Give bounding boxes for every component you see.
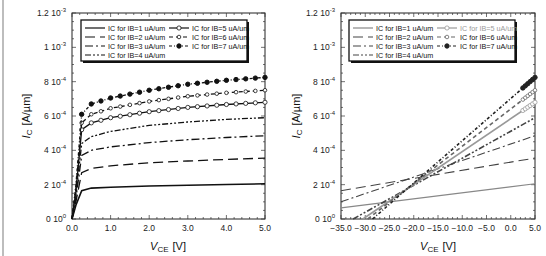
right-series-line <box>373 77 535 219</box>
y-tick-label: 4 10-4 <box>313 144 336 155</box>
x-tick-label: −25.0 <box>379 223 401 233</box>
right-series-line <box>353 118 535 219</box>
x-tick-label: 4.0 <box>220 223 232 233</box>
right-chart: 0 100 2 10-4 4 10-4 6 10-4 8 10-4 1 10-3… <box>290 7 541 254</box>
left-y-tick-labels: 0 100 2 10-4 4 10-4 6 10-4 8 10-4 1 10-3… <box>37 7 67 224</box>
right-y-axis-title: IC[A/µm] <box>290 94 304 139</box>
legend-entry: IC for IB=7 uA/um <box>192 42 249 51</box>
legend-entry: IC for IB=2 uA/um <box>376 33 433 42</box>
legend-entry: IC for IB=3 uA/um <box>108 42 165 51</box>
x-tick-label: 0.0 <box>505 223 517 233</box>
right-series-line <box>341 158 535 191</box>
legend-entry: IC for IB=7 uA/um <box>460 42 517 51</box>
y-tick-label: 1.2 10-3 <box>37 7 67 18</box>
y-tick-label: 8 10-4 <box>313 76 336 87</box>
legend-entry: IC for IB=3 uA/um <box>376 42 433 51</box>
left-series-line <box>72 184 265 219</box>
y-tick-label: 0 100 <box>46 213 67 224</box>
right-legend: IC for IB=1 uA/umIC for IB=2 uA/umIC for… <box>349 20 517 63</box>
y-tick-label: 4 10-4 <box>44 144 67 155</box>
right-series-group <box>341 75 537 219</box>
x-tick-label: −10.0 <box>451 223 473 233</box>
right-y-tick-labels: 0 100 2 10-4 4 10-4 6 10-4 8 10-4 1 10-3… <box>306 7 336 224</box>
left-y-axis-title: IC[A/µm] <box>20 94 34 139</box>
y-tick-label: 1 10-3 <box>44 41 67 52</box>
right-series-line <box>363 102 535 219</box>
x-tick-label: 1.0 <box>105 223 117 233</box>
y-tick-label: 6 10-4 <box>313 110 336 121</box>
x-tick-label: 2.0 <box>143 223 155 233</box>
x-tick-label: −5.0 <box>478 223 495 233</box>
left-x-axis-title: VCE[V] <box>150 240 186 254</box>
legend-entry: IC for IB=6 uA/um <box>460 33 517 42</box>
legend-entry: IC for IB=2 uA/um <box>108 33 165 42</box>
legend-entry: IC for IB=1 uA/um <box>108 24 165 33</box>
y-tick-label: 2 10-4 <box>313 179 336 190</box>
right-series-line <box>368 90 535 219</box>
x-tick-label: 3.0 <box>182 223 194 233</box>
legend-entry: IC for IB=4 uA/um <box>108 51 165 60</box>
charts-canvas: 0 100 2 10-4 4 10-4 6 10-4 8 10-4 1 10-3… <box>0 0 546 256</box>
legend-entry: IC for IB=1 uA/um <box>376 24 433 33</box>
left-legend: IC for IB=1 uA/umIC for IB=2 uA/umIC for… <box>81 20 249 63</box>
right-x-tick-labels: −35.0 −30.0 −25.0 −20.0 −15.0 −10.0 −5.0… <box>330 223 541 233</box>
right-series-line <box>341 184 535 208</box>
x-tick-label: 5.0 <box>529 223 541 233</box>
legend-entry: IC for IB=6 uA/um <box>192 33 249 42</box>
y-tick-label: 2 10-4 <box>44 179 67 190</box>
legend-entry: IC for IB=5 uA/um <box>192 24 249 33</box>
y-tick-label: 1 10-3 <box>313 41 336 52</box>
x-tick-label: 0.0 <box>66 223 78 233</box>
left-series-line <box>72 136 265 219</box>
left-series-line <box>72 118 265 219</box>
y-tick-label: 8 10-4 <box>44 76 67 87</box>
x-tick-label: −15.0 <box>427 223 449 233</box>
x-tick-label: 5.0 <box>259 223 271 233</box>
left-series-line <box>72 158 265 219</box>
x-tick-label: −35.0 <box>330 223 352 233</box>
left-x-tick-labels: 0.0 1.0 2.0 3.0 4.0 5.0 <box>66 223 271 233</box>
left-chart: 0 100 2 10-4 4 10-4 6 10-4 8 10-4 1 10-3… <box>20 7 271 254</box>
legend-entry: IC for IB=5 uA/um <box>460 24 517 33</box>
x-tick-label: −30.0 <box>354 223 376 233</box>
x-tick-label: −20.0 <box>403 223 425 233</box>
y-tick-label: 1.2 10-3 <box>306 7 336 18</box>
legend-entry: IC for IB=4 uA/um <box>376 51 433 60</box>
y-tick-label: 6 10-4 <box>44 110 67 121</box>
left-series-group <box>72 75 267 219</box>
right-x-axis-title: VCE[V] <box>420 240 456 254</box>
